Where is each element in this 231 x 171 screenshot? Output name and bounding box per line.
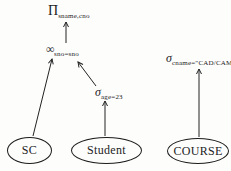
- entity-node-student: Student: [71, 137, 142, 164]
- query-tree-diagram: Πsname,cno ∞sno=sno σage=23 σcname="CAD/…: [0, 0, 231, 171]
- entity-label: Student: [87, 143, 126, 158]
- projection-operator: Πsname,cno: [48, 2, 90, 20]
- selection-operator-cname: σcname="CAD/CAM": [166, 49, 231, 67]
- join-operator: ∞sno=sno: [46, 40, 79, 58]
- arrow-sigma-age-to-join: [78, 62, 96, 86]
- selection-condition-age: age=23: [101, 93, 123, 101]
- arrow-sc-to-join: [33, 59, 52, 136]
- selection-condition-cname: cname="CAD/CAM": [172, 59, 231, 67]
- entity-label: SC: [22, 143, 37, 158]
- entity-node-sc: SC: [7, 137, 52, 164]
- pi-symbol: Π: [48, 3, 58, 18]
- entity-label: COURSE: [173, 144, 222, 159]
- selection-operator-age: σage=23: [95, 83, 123, 101]
- join-symbol: ∞: [46, 42, 54, 56]
- projection-subscript: sname,cno: [58, 12, 90, 20]
- entity-node-course: COURSE: [167, 138, 229, 164]
- join-condition: sno=sno: [54, 50, 79, 58]
